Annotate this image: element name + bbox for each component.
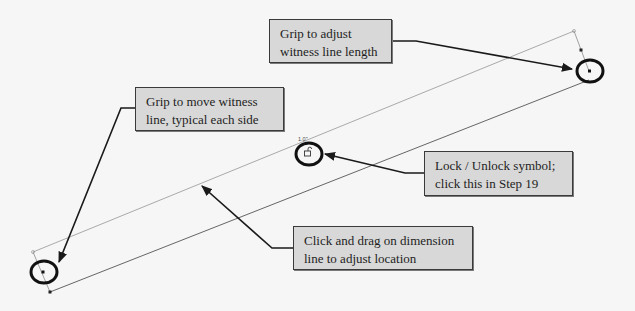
grip-highlight-bottom-left[interactable] [31, 261, 57, 283]
callout-line: Grip to move witness [146, 93, 273, 111]
grip-point-icon [42, 271, 45, 274]
callout-drag-dimension: Click and drag on dimension line to adju… [293, 226, 473, 270]
callout-line: Lock / Unlock symbol; [435, 157, 562, 175]
grip-point-icon [588, 70, 591, 73]
grip-highlight-top-right[interactable] [577, 60, 603, 82]
lock-icon [305, 147, 312, 156]
lock-unlock-toggle[interactable]: 1.0" [296, 136, 322, 165]
callout-line: witness line length [280, 43, 381, 61]
leader-arrow-lock-unlock [325, 154, 424, 173]
callout-line: line to adjust location [304, 250, 462, 268]
callout-line: Grip to adjust [280, 25, 381, 43]
leader-arrow-witness-length [392, 41, 572, 69]
callout-line: click this in Step 19 [435, 175, 562, 193]
dimension-value-label: 1.0" [298, 136, 308, 142]
callout-witness-length: Grip to adjust witness line length [269, 19, 392, 63]
grip-point-top[interactable] [580, 49, 583, 52]
callout-move-witness: Grip to move witness line, typical each … [135, 87, 284, 131]
grip-point-bottom[interactable] [49, 291, 52, 294]
callout-lock-unlock: Lock / Unlock symbol; click this in Step… [424, 151, 573, 196]
callout-line: line, typical each side [146, 111, 273, 129]
leader-arrow-move-witness [59, 108, 135, 262]
leader-arrow-drag-dimension [202, 186, 293, 248]
callout-line: Click and drag on dimension [304, 232, 462, 250]
